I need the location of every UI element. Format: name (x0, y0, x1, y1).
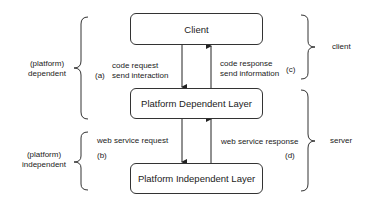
brace-label-independent-line1: (platform) (16, 150, 72, 160)
brace-label-server: server (330, 136, 352, 146)
platform-dependent-layer-box: Platform Dependent Layer (130, 88, 263, 119)
brace-label-client: client (332, 42, 351, 52)
label-a-line2: send interaction (112, 71, 168, 81)
left-brace-independent-icon (74, 132, 88, 190)
brace-label-dependent: (platform) dependent (22, 59, 72, 79)
label-d-line1: web service response (221, 137, 298, 147)
label-c-line1: code response (220, 59, 272, 69)
brace-label-dependent-line2: dependent (22, 69, 72, 79)
brace-label-independent-line2: independent (16, 160, 72, 170)
platform-independent-layer-label: Platform Independent Layer (138, 173, 255, 184)
platform-dependent-layer-label: Platform Dependent Layer (141, 98, 252, 109)
label-d-marker: (d) (285, 151, 295, 161)
label-c-line2: send information (220, 69, 279, 79)
label-a-marker: (a) (95, 71, 105, 81)
platform-independent-layer-box: Platform Independent Layer (130, 163, 263, 194)
left-brace-dependent-icon (74, 17, 88, 119)
right-brace-client-icon (301, 15, 315, 79)
label-b-line1: web service request (97, 136, 168, 146)
client-box: Client (130, 13, 263, 45)
right-brace-server-icon (301, 90, 315, 191)
brace-label-dependent-line1: (platform) (22, 59, 72, 69)
client-box-label: Client (184, 24, 208, 35)
label-c-marker: (c) (286, 65, 295, 75)
brace-label-independent: (platform) independent (16, 150, 72, 170)
label-a-line1: code request (112, 61, 158, 71)
label-b-marker: (b) (97, 151, 107, 161)
